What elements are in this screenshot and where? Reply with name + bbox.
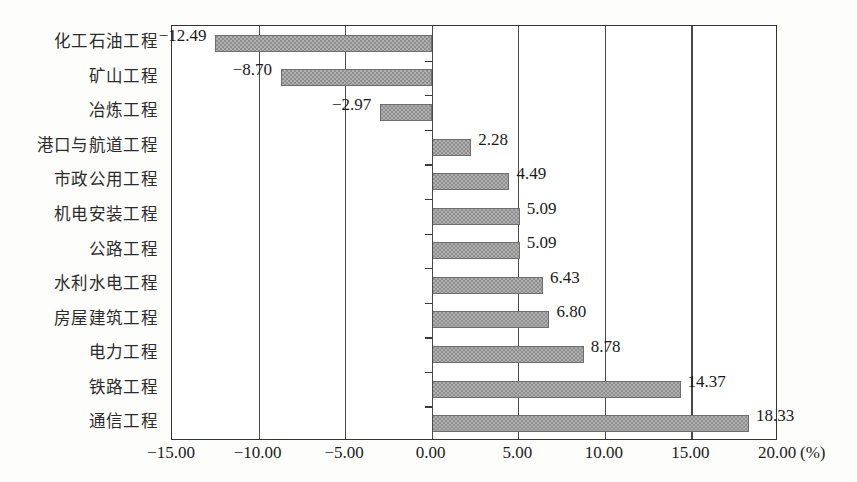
- bar-value-label: 5.09: [527, 200, 557, 217]
- bar-value-label: 6.80: [556, 303, 586, 320]
- axis-tick: [425, 164, 432, 165]
- axis-tick: [425, 337, 432, 338]
- x-axis-tick-label: 20.00: [758, 443, 796, 463]
- axis-tick: [425, 61, 432, 62]
- x-axis-unit-label: (%): [800, 443, 825, 463]
- axis-tick: [425, 372, 432, 373]
- bar: [432, 208, 520, 225]
- y-axis-label: 市政公用工程: [54, 163, 158, 198]
- y-axis-label: 房屋建筑工程: [54, 302, 158, 337]
- x-axis-tick-label: −5.00: [324, 443, 363, 463]
- gridline: [518, 26, 519, 439]
- x-axis-tick-label: 0.00: [416, 443, 446, 463]
- y-axis-label: 通信工程: [89, 405, 158, 440]
- y-axis-label: 矿山工程: [89, 60, 158, 95]
- plot-area: −12.49−8.70−2.972.284.495.095.096.436.80…: [171, 25, 777, 440]
- y-axis-label: 化工石油工程: [54, 25, 158, 60]
- bar-value-label: 5.09: [527, 234, 557, 251]
- axis-tick: [425, 199, 432, 200]
- bar-value-label: 2.28: [478, 131, 508, 148]
- bar-value-label: 14.37: [688, 373, 726, 390]
- x-axis-tick-labels: −15.00−10.00−5.000.005.0010.0015.0020.00: [171, 443, 777, 467]
- axis-tick: [425, 234, 432, 235]
- x-axis-tick-label: 15.00: [671, 443, 709, 463]
- bar-value-label: −8.70: [233, 61, 272, 78]
- bar: [432, 173, 510, 190]
- bar: [215, 35, 431, 52]
- y-axis-label: 铁路工程: [89, 371, 158, 406]
- gridline: [259, 26, 260, 439]
- bar-value-label: −2.97: [332, 96, 371, 113]
- x-axis-tick-label: 5.00: [502, 443, 532, 463]
- y-axis-label: 冶炼工程: [89, 94, 158, 129]
- bar: [281, 69, 432, 86]
- bar: [432, 277, 543, 294]
- gridline: [345, 26, 346, 439]
- bar-value-label: −12.49: [159, 27, 207, 44]
- bar-value-label: 18.33: [756, 407, 794, 424]
- zero-axis-line: [432, 26, 433, 439]
- bar-value-label: 6.43: [550, 269, 580, 286]
- gridline: [605, 26, 606, 439]
- chart-page: 化工石油工程矿山工程冶炼工程港口与航道工程市政公用工程机电安装工程公路工程水利水…: [0, 0, 857, 482]
- axis-tick: [425, 268, 432, 269]
- bar-value-label: 8.78: [591, 338, 621, 355]
- bar: [432, 346, 584, 363]
- bar: [432, 139, 471, 156]
- y-axis-label: 港口与航道工程: [37, 129, 158, 164]
- bar: [380, 104, 431, 121]
- bar-value-label: 4.49: [516, 165, 546, 182]
- x-axis-tick-label: −10.00: [234, 443, 282, 463]
- bar: [432, 415, 749, 432]
- y-axis-label: 公路工程: [89, 233, 158, 268]
- y-axis-label: 机电安装工程: [54, 198, 158, 233]
- axis-tick: [425, 303, 432, 304]
- y-axis-category-labels: 化工石油工程矿山工程冶炼工程港口与航道工程市政公用工程机电安装工程公路工程水利水…: [0, 25, 166, 440]
- axis-tick: [425, 406, 432, 407]
- x-axis-tick-label: −15.00: [147, 443, 195, 463]
- bar: [432, 242, 520, 259]
- y-axis-label: 水利水电工程: [54, 267, 158, 302]
- bar: [432, 381, 681, 398]
- axis-tick: [425, 95, 432, 96]
- y-axis-label: 电力工程: [89, 336, 158, 371]
- axis-tick: [425, 130, 432, 131]
- bar: [432, 311, 550, 328]
- x-axis-tick-label: 10.00: [585, 443, 623, 463]
